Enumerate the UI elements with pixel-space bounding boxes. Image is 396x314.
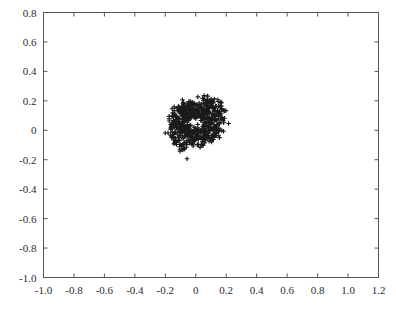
x-tick-label: -0.2 [157,284,174,296]
x-tick-label: -1.0 [35,284,53,296]
x-tick-label: -0.8 [65,284,83,296]
y-tick-label: -1.0 [19,272,37,284]
y-tick-label: 0.4 [23,65,37,77]
x-tick-label: -0.6 [96,284,114,296]
x-tick-label: 0.2 [219,284,233,296]
x-tick-label: 1.2 [372,284,386,296]
y-tick-label: -0.4 [19,183,37,195]
y-tick-label: 0.8 [23,7,37,19]
y-tick-label: 0.6 [23,36,37,48]
figure-background [0,0,396,314]
y-tick-label: 0.2 [23,95,37,107]
x-tick-label: 0.4 [250,284,264,296]
scatter-plot-figure: -1.0-0.8-0.6-0.4-0.200.20.40.60.81.01.2 … [0,0,396,314]
x-tick-label: 1.0 [341,284,355,296]
x-tick-label: -0.4 [126,284,144,296]
y-tick-label: 0 [31,124,37,136]
plot-canvas: -1.0-0.8-0.6-0.4-0.200.20.40.60.81.01.2 … [0,0,396,314]
y-tick-label: -0.6 [19,213,37,225]
y-tick-label: -0.2 [19,154,36,166]
x-tick-label: 0.8 [311,284,325,296]
x-tick-label: 0.6 [280,284,294,296]
x-tick-label: 0 [193,284,199,296]
y-tick-label: -0.8 [19,242,37,254]
